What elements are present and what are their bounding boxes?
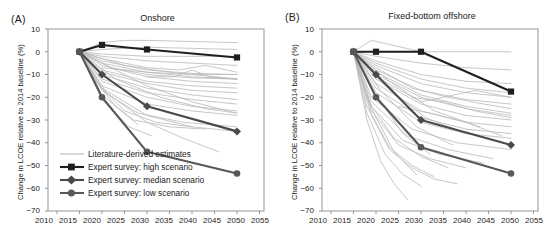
x-tick-label: 2055 bbox=[518, 216, 550, 225]
y-tick-label: −40 bbox=[288, 138, 314, 147]
legend-swatch-high bbox=[58, 161, 86, 173]
legend-label-high: Expert survey: high scenario bbox=[88, 162, 193, 172]
y-tick-label: −20 bbox=[288, 93, 314, 102]
y-tick-label: −60 bbox=[14, 184, 40, 193]
y-tick-label: −10 bbox=[14, 70, 40, 79]
panel-title-onshore: Onshore bbox=[55, 13, 260, 23]
legend-label-low: Expert survey: low scenario bbox=[88, 188, 189, 198]
y-tick-label: −70 bbox=[14, 206, 40, 215]
legend-swatch-literature bbox=[58, 148, 86, 160]
plot-area-offshore bbox=[316, 24, 546, 214]
y-tick-label: −20 bbox=[14, 93, 40, 102]
legend-label-literature: Literature-derived estimates bbox=[88, 149, 191, 159]
y-tick-label: −10 bbox=[288, 70, 314, 79]
y-tick-label: −70 bbox=[288, 206, 314, 215]
panel-title-offshore: Fixed-bottom offshore bbox=[327, 11, 537, 21]
legend-label-median: Expert survey: median scenario bbox=[88, 175, 204, 185]
y-tick-label: −30 bbox=[14, 116, 40, 125]
panel-letter-a: (A) bbox=[11, 13, 26, 25]
y-tick-label: −50 bbox=[288, 161, 314, 170]
y-tick-label: 0 bbox=[292, 48, 314, 57]
panel-onshore: (A) Onshore Change in LCOE relative to 2… bbox=[0, 0, 277, 250]
y-tick-label: 10 bbox=[292, 25, 314, 34]
y-tick-label: 0 bbox=[18, 48, 40, 57]
figure-root: (A) Onshore Change in LCOE relative to 2… bbox=[0, 0, 554, 250]
y-tick-label: −40 bbox=[14, 138, 40, 147]
legend-swatch-low bbox=[58, 187, 86, 199]
x-tick-label: 2055 bbox=[244, 216, 276, 225]
y-tick-label: −30 bbox=[288, 116, 314, 125]
y-tick-label: 10 bbox=[18, 25, 40, 34]
panel-fixed-bottom-offshore: (B) Fixed-bottom offshore Change in LCOE… bbox=[277, 0, 554, 250]
y-tick-label: −50 bbox=[14, 161, 40, 170]
y-tick-label: −60 bbox=[288, 184, 314, 193]
panel-letter-b: (B) bbox=[285, 11, 300, 23]
legend-swatch-median bbox=[58, 174, 86, 186]
